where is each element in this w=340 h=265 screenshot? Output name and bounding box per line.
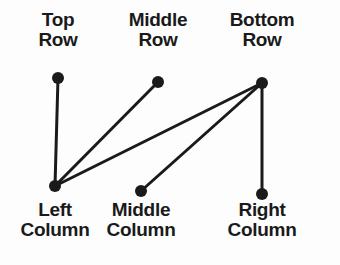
edges-layer	[55, 78, 262, 194]
edge-top-row-left-column	[55, 78, 58, 186]
edge-bottom-row-left-column	[55, 83, 262, 186]
node-dot-middle-column[interactable]	[135, 185, 147, 197]
node-label-top-row: Top Row	[8, 10, 108, 50]
node-dot-middle-row[interactable]	[152, 76, 164, 88]
node-dot-left-column[interactable]	[49, 180, 61, 192]
edge-middle-row-left-column	[55, 82, 158, 186]
node-label-middle-row: Middle Row	[108, 10, 208, 50]
node-label-middle-column: Middle Column	[88, 200, 194, 240]
node-dot-bottom-row[interactable]	[256, 77, 268, 89]
edge-bottom-row-middle-column	[141, 83, 262, 191]
bipartite-graph-diagram: Top Row Middle Row Bottom Row Left Colum…	[0, 0, 340, 265]
node-label-right-column: Right Column	[208, 200, 316, 240]
node-dot-top-row[interactable]	[52, 72, 64, 84]
node-label-bottom-row: Bottom Row	[212, 10, 312, 50]
